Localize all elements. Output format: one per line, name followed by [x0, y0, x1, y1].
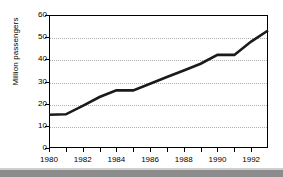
x-tick-mark-1985 [133, 148, 134, 152]
x-tick-mark-1984 [116, 148, 117, 152]
series-line-million-passengers [49, 15, 268, 148]
x-tick-mark-1983 [100, 148, 101, 152]
line-chart: Million passengers 0102030405060 1980198… [0, 0, 283, 168]
y-tick-label-60: 60 [21, 11, 47, 19]
x-tick-label-1992: 1992 [231, 155, 271, 164]
x-tick-mark-1986 [150, 148, 151, 152]
x-tick-mark-1992 [251, 148, 252, 152]
x-tick-mark-1991 [234, 148, 235, 152]
x-tick-mark-1987 [167, 148, 168, 152]
y-tick-label-50: 50 [21, 33, 47, 41]
x-tick-mark-1988 [184, 148, 185, 152]
page-bottom-highlight [0, 168, 283, 170]
page-bottom-edge [0, 168, 283, 177]
y-tick-label-20: 20 [21, 100, 47, 108]
x-tick-mark-1990 [217, 148, 218, 152]
y-tick-label-0: 0 [21, 144, 47, 152]
x-tick-mark-1982 [83, 148, 84, 152]
x-tick-mark-1981 [66, 148, 67, 152]
y-tick-label-40: 40 [21, 55, 47, 63]
y-axis-title: Million passengers [11, 7, 20, 97]
y-tick-label-30: 30 [21, 78, 47, 86]
x-tick-mark-1980 [49, 148, 50, 152]
y-tick-label-10: 10 [21, 122, 47, 130]
chart-page: Million passengers 0102030405060 1980198… [0, 0, 283, 177]
x-tick-mark-1989 [201, 148, 202, 152]
